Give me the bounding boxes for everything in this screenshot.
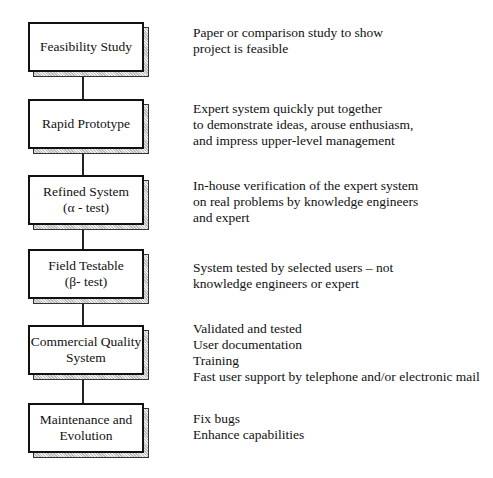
stage-label: Field Testable <box>48 258 124 274</box>
stage-label: Refined System <box>43 184 129 200</box>
description-line: Fix bugs <box>193 411 304 427</box>
stage-box-feasibility: Feasibility Study <box>28 22 144 72</box>
description-line: Paper or comparison study to show <box>193 25 383 41</box>
description-rapid-prototype: Expert system quickly put together to de… <box>193 101 413 149</box>
stage-box-field-testable: Field Testable (β- test) <box>28 249 144 299</box>
description-line: to demonstrate ideas, arouse enthusiasm, <box>193 117 413 133</box>
description-line: Fast user support by telephone and/or el… <box>193 369 480 385</box>
stage-feasibility: Feasibility Study <box>28 22 144 72</box>
stage-box-maintenance: Maintenance and Evolution <box>28 403 144 453</box>
description-line: Enhance capabilities <box>193 427 304 443</box>
description-line: project is feasible <box>193 41 383 57</box>
stage-rapid-prototype: Rapid Prototype <box>28 99 144 149</box>
description-line: User documentation <box>193 337 480 353</box>
description-line: and expert <box>193 210 418 226</box>
stage-box-refined-system: Refined System (α - test) <box>28 175 144 225</box>
stage-field-testable: Field Testable (β- test) <box>28 249 144 299</box>
description-line: In-house verification of the expert syst… <box>193 178 418 194</box>
stage-label: Commercial Quality <box>31 334 142 350</box>
stage-sublabel: (β- test) <box>65 274 107 290</box>
description-refined-system: In-house verification of the expert syst… <box>193 178 418 226</box>
stage-refined-system: Refined System (α - test) <box>28 175 144 225</box>
description-feasibility: Paper or comparison study to show projec… <box>193 25 383 57</box>
description-line: on real problems by knowledge engineers <box>193 194 418 210</box>
description-commercial-quality: Validated and tested User documentation … <box>193 321 480 385</box>
stage-label: Rapid Prototype <box>42 116 130 132</box>
description-line: Training <box>193 353 480 369</box>
description-line: knowledge engineers or expert <box>193 276 393 292</box>
description-line: Expert system quickly put together <box>193 101 413 117</box>
description-line: and impress upper-level management <box>193 133 413 149</box>
stage-maintenance: Maintenance and Evolution <box>28 403 144 453</box>
description-line: Validated and tested <box>193 321 480 337</box>
description-maintenance: Fix bugs Enhance capabilities <box>193 411 304 443</box>
description-line: System tested by selected users – not <box>193 260 393 276</box>
stage-box-commercial-quality: Commercial Quality System <box>28 325 144 375</box>
stage-label: Feasibility Study <box>40 39 132 55</box>
stage-label: Maintenance and <box>40 412 133 428</box>
stage-sublabel: (α - test) <box>63 200 109 216</box>
stage-sublabel: System <box>66 350 106 366</box>
stage-box-rapid-prototype: Rapid Prototype <box>28 99 144 149</box>
stage-commercial-quality: Commercial Quality System <box>28 325 144 375</box>
stage-sublabel: Evolution <box>59 428 112 444</box>
description-field-testable: System tested by selected users – not kn… <box>193 260 393 292</box>
